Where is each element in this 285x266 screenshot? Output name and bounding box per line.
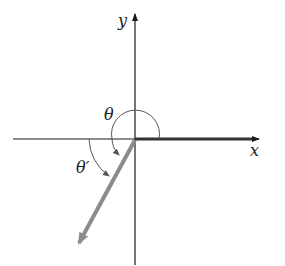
- y-axis-label: y: [118, 13, 127, 29]
- terminal-side: [79, 140, 135, 243]
- x-axis-label: x: [250, 143, 259, 159]
- theta-prime-arc: [89, 139, 109, 176]
- reference-angle-diagram: y x θ θ′: [0, 0, 285, 266]
- theta-label: θ: [104, 107, 114, 123]
- diagram-svg: [0, 0, 285, 266]
- theta-prime-label: θ′: [76, 160, 89, 176]
